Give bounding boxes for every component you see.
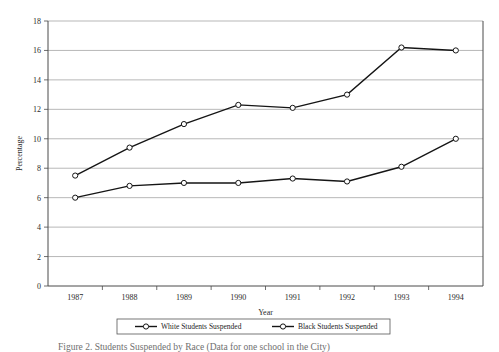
data-point-marker <box>453 48 458 53</box>
chart-legend: White Students SuspendedBlack Students S… <box>117 319 390 334</box>
data-point-marker <box>181 121 186 126</box>
data-point-marker <box>127 183 132 188</box>
figure-caption: Figure 2. Students Suspended by Race (Da… <box>58 341 478 352</box>
series-line-2 <box>75 48 456 176</box>
y-tick-label: 2 <box>37 253 41 262</box>
legend-label: White Students Suspended <box>161 322 242 331</box>
data-point-marker <box>399 164 404 169</box>
data-point-marker <box>290 105 295 110</box>
data-point-marker <box>290 176 295 181</box>
x-tick-label: 1994 <box>448 293 464 302</box>
y-tick-label: 10 <box>33 135 41 144</box>
data-series <box>73 45 459 200</box>
legend-marker <box>280 324 285 329</box>
y-tick-label: 6 <box>37 194 41 203</box>
x-tick-label: 1989 <box>176 293 192 302</box>
data-point-marker <box>181 180 186 185</box>
data-point-marker <box>127 145 132 150</box>
legend-marker <box>143 324 148 329</box>
data-point-marker <box>344 92 349 97</box>
data-point-marker <box>236 102 241 107</box>
data-point-marker <box>344 179 349 184</box>
data-point-marker <box>73 195 78 200</box>
legend-label: Black Students Suspended <box>298 322 378 331</box>
x-tick-label: 1993 <box>393 293 409 302</box>
data-point-marker <box>73 173 78 178</box>
data-point-marker <box>453 136 458 141</box>
data-point-marker <box>399 45 404 50</box>
y-tick-label: 14 <box>33 76 41 85</box>
x-tick-label: 1992 <box>339 293 355 302</box>
y-tick-label: 8 <box>37 164 41 173</box>
x-tick-label: 1988 <box>122 293 138 302</box>
figure-container: 024681012141618 198719881989199019911992… <box>0 0 499 352</box>
y-tick-label: 4 <box>37 223 41 232</box>
x-tick-label: 1991 <box>285 293 301 302</box>
line-chart: 024681012141618 198719881989199019911992… <box>0 0 499 352</box>
y-tick-label: 18 <box>33 17 41 26</box>
x-tick-label: 1990 <box>230 293 246 302</box>
y-axis-ticks: 024681012141618 <box>33 17 48 291</box>
data-point-marker <box>236 180 241 185</box>
y-tick-label: 12 <box>33 105 41 114</box>
y-axis-title: Percentage <box>15 136 24 172</box>
gridlines <box>48 21 483 257</box>
x-axis-ticks: 19871988198919901991199219931994 <box>67 286 464 302</box>
y-tick-label: 16 <box>33 46 41 55</box>
x-tick-label: 1987 <box>67 293 83 302</box>
y-tick-label: 0 <box>37 282 41 291</box>
plot-frame <box>48 21 483 286</box>
x-axis-title: Year <box>258 308 273 317</box>
